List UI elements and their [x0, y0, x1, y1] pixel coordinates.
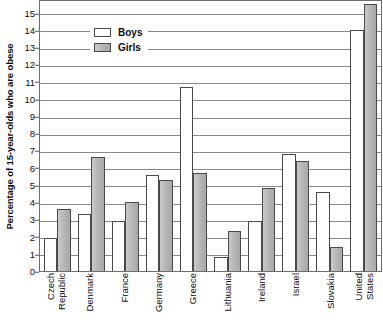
legend-item-boys: Boys: [94, 25, 142, 40]
bar-group: [245, 1, 279, 271]
x-axis-label-slovakia: Slovakia: [313, 273, 347, 330]
x-axis-label-line: United: [354, 273, 364, 300]
x-axis-label-line: Denmark: [85, 273, 95, 312]
y-axis-tick-label: 15: [24, 9, 35, 19]
x-axis-label-line: Lithuania: [223, 273, 233, 312]
x-axis-label-united-states: UnitedStates: [348, 273, 382, 330]
x-axis-label-ireland: Ireland: [245, 273, 279, 330]
y-axis-tick-label: 1: [30, 250, 35, 260]
bar-boys: [350, 30, 364, 271]
y-axis-tick-label: 4: [30, 198, 35, 208]
x-axis-tick-labels: CzechRepublicDenmarkFranceGermanyGreeceL…: [39, 273, 382, 330]
y-axis-tick-label: 6: [30, 164, 35, 174]
bar-group: [176, 1, 210, 271]
y-axis-tick-label: 7: [30, 147, 35, 157]
x-axis-label-denmark: Denmark: [73, 273, 107, 330]
x-axis-label-line: France: [120, 273, 130, 303]
y-axis-tick-label: 8: [30, 130, 35, 140]
bar-boys: [180, 87, 194, 271]
bar-boys: [248, 221, 262, 271]
x-axis-label-line: Greece: [188, 273, 198, 304]
chart-legend: Boys Girls: [90, 23, 148, 58]
legend-label-boys: Boys: [118, 28, 142, 38]
y-axis-tick-label: 12: [24, 61, 35, 71]
x-axis-label-greece: Greece: [176, 273, 210, 330]
x-axis-label-line: Ireland: [257, 273, 267, 302]
bar-boys: [214, 257, 228, 271]
obesity-bar-chart: Percentage of 15-year-olds who are obese…: [0, 0, 383, 330]
bar-group: [40, 1, 74, 271]
bar-boys: [78, 214, 92, 271]
bar-girls: [57, 209, 71, 271]
y-axis-tick-label: 5: [30, 181, 35, 191]
bar-group: [279, 1, 313, 271]
legend-label-girls: Girls: [118, 43, 141, 53]
bar-boys: [282, 154, 296, 271]
y-axis-tick-label: 2: [30, 233, 35, 243]
y-axis-tick-label: 0: [30, 267, 35, 277]
y-axis-title-text: Percentage of 15-year-olds who are obese: [4, 43, 15, 229]
bar-girls: [296, 161, 310, 271]
x-axis-label-line: Israel: [291, 273, 301, 296]
bar-girls: [262, 188, 276, 271]
bar-girls: [125, 202, 139, 271]
y-axis-title: Percentage of 15-year-olds who are obese: [0, 0, 18, 272]
bar-boys: [44, 238, 58, 271]
y-axis-tick-label: 11: [25, 78, 35, 88]
x-axis-label-line: States: [365, 273, 375, 300]
x-axis-label-lithuania: Lithuania: [211, 273, 245, 330]
bar-girls: [330, 247, 344, 271]
bar-girls: [364, 4, 378, 271]
y-axis-tick-label: 10: [24, 95, 35, 105]
y-axis-tick-label: 14: [24, 26, 35, 36]
x-axis-label-germany: Germany: [142, 273, 176, 330]
bar-girls: [193, 173, 207, 271]
legend-item-girls: Girls: [94, 40, 142, 55]
plot-area: Boys Girls: [39, 0, 382, 272]
bar-group: [210, 1, 244, 271]
x-axis-label-line: Germany: [154, 273, 164, 312]
x-axis-label-line: Slovakia: [326, 273, 336, 309]
y-axis-tick-label: 3: [30, 216, 35, 226]
bar-girls: [228, 231, 242, 271]
x-axis-label-france: France: [108, 273, 142, 330]
bar-group: [347, 1, 381, 271]
x-axis-label-line: Republic: [57, 273, 67, 310]
bar-boys: [316, 192, 330, 271]
legend-swatch-girls-icon: [94, 43, 111, 52]
bar-boys: [112, 221, 126, 271]
y-axis-tick-label: 9: [30, 112, 35, 122]
x-axis-label-czech-republic: CzechRepublic: [39, 273, 73, 330]
bar-girls: [91, 157, 105, 271]
x-axis-label-line: Czech: [46, 273, 56, 300]
y-axis-tick-labels: 0123456789101112131415: [18, 0, 37, 272]
bar-girls: [159, 180, 173, 271]
legend-swatch-boys-icon: [94, 28, 111, 37]
bar-group: [313, 1, 347, 271]
y-axis-tick-label: 13: [24, 43, 35, 53]
x-axis-label-israel: Israel: [279, 273, 313, 330]
bar-boys: [146, 175, 160, 271]
